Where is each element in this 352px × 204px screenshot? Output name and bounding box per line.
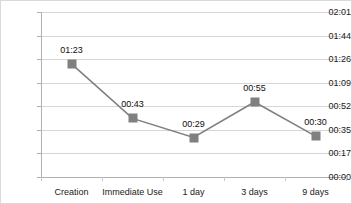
y-axis-tick: [37, 12, 41, 13]
data-point-label: 00:43: [121, 99, 144, 109]
x-axis-category-label: 3 days: [241, 187, 268, 198]
data-point-label: 00:29: [182, 119, 205, 129]
y-axis-tick: [37, 130, 41, 131]
x-axis-tick: [41, 177, 42, 181]
y-axis-label: 01:09: [317, 78, 351, 88]
data-point-marker: [311, 132, 320, 141]
y-axis-tick: [37, 106, 41, 107]
x-axis-category-label: 1 day: [182, 187, 204, 198]
x-axis-tick: [224, 177, 225, 181]
gridline: [41, 12, 346, 13]
gridline: [41, 106, 346, 107]
gridline: [41, 83, 346, 84]
x-axis-category-label: Immediate Use: [102, 187, 163, 198]
y-axis-label: 00:17: [317, 148, 351, 158]
gridline: [41, 130, 346, 131]
x-axis-tick: [163, 177, 164, 181]
data-point-marker: [250, 98, 259, 107]
y-axis-tick: [37, 83, 41, 84]
data-point-marker: [128, 114, 137, 123]
x-axis-tick: [102, 177, 103, 181]
y-axis-tick: [37, 153, 41, 154]
y-axis-label: 01:44: [317, 31, 351, 41]
x-axis-category-label: Creation: [54, 187, 88, 198]
line-chart: 02:01 01:44 01:26 01:09 00:52 00:35 00:1…: [0, 0, 352, 204]
data-point-marker: [67, 59, 76, 68]
x-axis-tick: [346, 177, 347, 181]
y-axis-tick: [37, 36, 41, 37]
x-axis-tick: [285, 177, 286, 181]
x-axis-line: [41, 177, 346, 178]
data-point-label: 00:55: [243, 83, 266, 93]
gridline: [41, 59, 346, 60]
y-axis-label: 01:26: [317, 54, 351, 64]
x-axis-category-label: 9 days: [302, 187, 329, 198]
gridline: [41, 153, 346, 154]
y-axis-label: 02:01: [317, 7, 351, 17]
y-axis-tick: [37, 59, 41, 60]
data-point-label: 01:23: [60, 45, 83, 55]
gridline: [41, 36, 346, 37]
y-axis-label: 00:52: [317, 101, 351, 111]
data-point-label: 00:30: [304, 117, 327, 127]
y-axis-line: [41, 12, 42, 178]
plot-area: [41, 12, 346, 177]
data-point-marker: [189, 133, 198, 142]
